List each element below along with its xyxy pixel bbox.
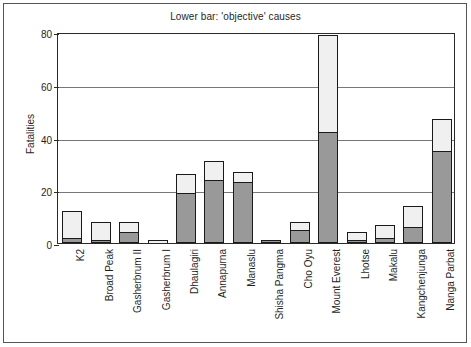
bar[interactable]: [318, 35, 338, 243]
x-tick-label: Lhotse: [360, 249, 371, 279]
x-tick-label-text: Cho Oyu: [303, 249, 314, 288]
x-tick-label: Dhaulagiri: [189, 249, 200, 294]
y-tick-mark: [54, 245, 59, 246]
bar-segment-upper: [91, 222, 111, 240]
bar[interactable]: [432, 119, 452, 243]
bar[interactable]: [204, 161, 224, 243]
y-axis-label: Fatalities: [25, 114, 36, 154]
y-tick-label: 20: [41, 187, 52, 198]
bar[interactable]: [347, 232, 367, 243]
bar-segment-lower: [375, 238, 395, 243]
x-tick-label-text: Gasherbrum I: [161, 249, 172, 310]
x-tick-label: Manaslu: [246, 249, 257, 287]
bar-segment-lower: [91, 240, 111, 243]
x-tick-label: Mount Everest: [331, 249, 342, 313]
x-tick-label-text: Dhaulagiri: [189, 249, 200, 294]
bar-segment-upper: [347, 232, 367, 240]
x-tick-label-text: K2: [75, 249, 86, 261]
bar-segment-lower: [204, 180, 224, 243]
gridline: [58, 87, 454, 88]
bar-segment-upper: [148, 240, 168, 243]
bar-segment-lower: [233, 182, 253, 243]
bar[interactable]: [261, 240, 281, 243]
chart-title: Lower bar: 'objective' causes: [0, 11, 471, 22]
bar-segment-lower: [290, 230, 310, 243]
plot-area: Fatalities 020406080: [57, 33, 455, 244]
x-tick-label: Gasherbrum I: [161, 249, 172, 310]
y-tick-mark: [54, 192, 59, 193]
x-tick-label-text: Shisha Pangma: [274, 249, 285, 320]
x-tick-label-text: Mount Everest: [331, 249, 342, 313]
x-tick-label-text: Nanga Parbat: [445, 249, 456, 311]
x-tick-label: K2: [75, 249, 86, 261]
bar-segment-upper: [375, 225, 395, 238]
x-tick-label-text: Annapurna: [217, 249, 228, 298]
y-tick-label: 60: [41, 81, 52, 92]
x-tick-label-text: Makalu: [388, 249, 399, 281]
y-tick-mark: [54, 140, 59, 141]
bar-segment-upper: [233, 172, 253, 183]
x-tick-label: Annapurna: [217, 249, 228, 298]
bar[interactable]: [403, 206, 423, 243]
y-tick-mark: [54, 87, 59, 88]
x-tick-label-text: Manaslu: [246, 249, 257, 287]
x-tick-label-text: Gasherbrum II: [132, 249, 143, 313]
x-tick-label: Gasherbrum II: [132, 249, 143, 313]
y-tick-label: 80: [41, 29, 52, 40]
bar[interactable]: [119, 222, 139, 243]
bar-segment-upper: [290, 222, 310, 230]
bar-segment-lower: [261, 240, 281, 243]
bar-segment-lower: [176, 193, 196, 243]
bar[interactable]: [62, 211, 82, 243]
bar-segment-lower: [62, 238, 82, 243]
x-tick-label-text: Broad Peak: [104, 249, 115, 301]
x-tick-label: Kangchenjunga: [416, 249, 427, 319]
bar[interactable]: [375, 225, 395, 243]
bar[interactable]: [148, 240, 168, 243]
bar[interactable]: [233, 172, 253, 243]
bar-segment-lower: [347, 240, 367, 243]
gridline: [58, 140, 454, 141]
x-tick-label: Cho Oyu: [303, 249, 314, 288]
bar-segment-lower: [432, 151, 452, 243]
bar[interactable]: [176, 174, 196, 243]
x-tick-label: Broad Peak: [104, 249, 115, 301]
chart-figure: Lower bar: 'objective' causes Fatalities…: [0, 0, 471, 347]
bar-segment-lower: [119, 232, 139, 243]
bar-segment-upper: [119, 222, 139, 233]
bar-segment-upper: [403, 206, 423, 227]
bar-segment-upper: [432, 119, 452, 151]
bar-segment-upper: [318, 35, 338, 133]
bar-segment-lower: [318, 132, 338, 243]
y-tick-label: 0: [46, 240, 52, 251]
x-tick-label: Makalu: [388, 249, 399, 281]
bar-segment-lower: [403, 227, 423, 243]
x-tick-label-text: Kangchenjunga: [416, 249, 427, 319]
y-tick-mark: [54, 34, 59, 35]
x-tick-label: Shisha Pangma: [274, 249, 285, 320]
bar[interactable]: [91, 222, 111, 243]
bar-segment-upper: [62, 211, 82, 237]
bar[interactable]: [290, 222, 310, 243]
y-tick-label: 40: [41, 134, 52, 145]
bar-segment-upper: [176, 174, 196, 192]
gridline: [58, 192, 454, 193]
x-tick-label: Nanga Parbat: [445, 249, 456, 311]
bar-segment-upper: [204, 161, 224, 179]
x-tick-label-text: Lhotse: [360, 249, 371, 279]
